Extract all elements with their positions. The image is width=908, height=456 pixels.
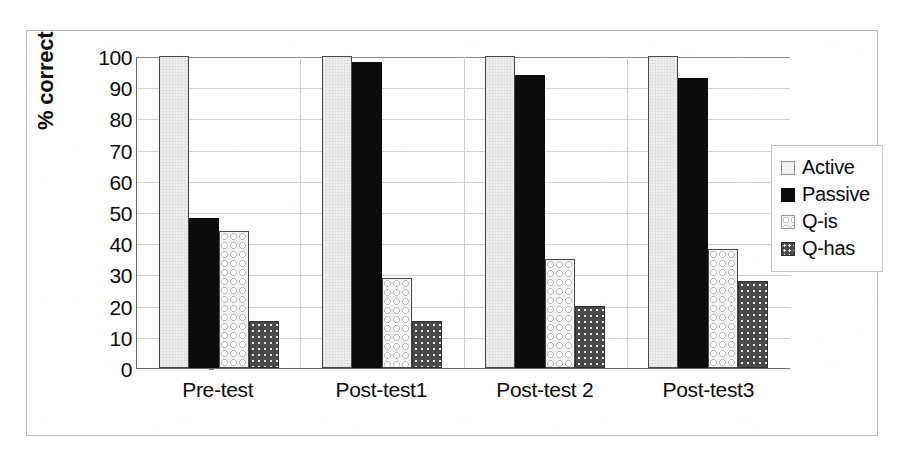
bar-group bbox=[464, 57, 627, 368]
bar-group bbox=[137, 57, 300, 368]
bar-active[interactable] bbox=[485, 56, 515, 368]
bar-active[interactable] bbox=[648, 56, 678, 368]
bar-active[interactable] bbox=[159, 56, 189, 368]
bar-q-is[interactable] bbox=[545, 259, 575, 368]
y-tick-label: 60 bbox=[109, 171, 132, 192]
bar-q-has[interactable] bbox=[249, 321, 279, 368]
y-tick-label: 0 bbox=[121, 359, 132, 380]
bar-group bbox=[300, 57, 463, 368]
y-tick-label: 90 bbox=[109, 78, 132, 99]
bar-passive[interactable] bbox=[678, 78, 708, 368]
legend: ActivePassiveQ-isQ-has bbox=[771, 145, 883, 272]
bar-active[interactable] bbox=[322, 56, 352, 368]
bar-q-has[interactable] bbox=[412, 321, 442, 368]
y-tick-label: 40 bbox=[109, 234, 132, 255]
legend-label: Active bbox=[802, 156, 855, 179]
y-tick-label: 20 bbox=[109, 296, 132, 317]
legend-swatch-icon bbox=[781, 161, 795, 175]
plot-area bbox=[136, 57, 790, 369]
bar-q-is[interactable] bbox=[219, 231, 249, 368]
y-tick-label: 100 bbox=[98, 47, 132, 68]
y-axis-tick-labels: 0102030405060708090100 bbox=[78, 46, 132, 382]
x-tick-label: Post-test 2 bbox=[463, 378, 627, 402]
y-tick-label: 70 bbox=[109, 140, 132, 161]
y-tick-label: 10 bbox=[109, 327, 132, 348]
y-tick-label: 50 bbox=[109, 203, 132, 224]
bar-q-is[interactable] bbox=[708, 249, 738, 368]
x-tick-label: Pre-test bbox=[136, 378, 300, 402]
legend-item-q-has[interactable]: Q-has bbox=[781, 235, 870, 262]
legend-swatch-icon bbox=[781, 188, 795, 202]
x-tick-label: Post-test3 bbox=[627, 378, 791, 402]
y-tick-label: 80 bbox=[109, 109, 132, 130]
bar-passive[interactable] bbox=[352, 62, 382, 368]
bar-q-is[interactable] bbox=[382, 278, 412, 368]
bar-q-has[interactable] bbox=[738, 281, 768, 368]
bar-passive[interactable] bbox=[189, 218, 219, 368]
y-axis-title: % correct bbox=[33, 0, 59, 130]
legend-label: Q-has bbox=[802, 237, 855, 260]
bar-q-has[interactable] bbox=[575, 306, 605, 368]
legend-label: Q-is bbox=[802, 210, 837, 233]
bar-group bbox=[627, 57, 790, 368]
legend-swatch-icon bbox=[781, 215, 795, 229]
y-tick-label: 30 bbox=[109, 265, 132, 286]
x-tick-label: Post-test1 bbox=[300, 378, 464, 402]
bar-groups bbox=[137, 57, 790, 368]
legend-label: Passive bbox=[802, 183, 870, 206]
bar-passive[interactable] bbox=[515, 75, 545, 368]
legend-swatch-icon bbox=[781, 242, 795, 256]
legend-item-active[interactable]: Active bbox=[781, 154, 870, 181]
x-axis-tick-labels: Pre-testPost-test1Post-test 2Post-test3 bbox=[136, 378, 790, 402]
y-tick-mark bbox=[209, 369, 214, 370]
legend-item-passive[interactable]: Passive bbox=[781, 181, 870, 208]
legend-item-q-is[interactable]: Q-is bbox=[781, 208, 870, 235]
